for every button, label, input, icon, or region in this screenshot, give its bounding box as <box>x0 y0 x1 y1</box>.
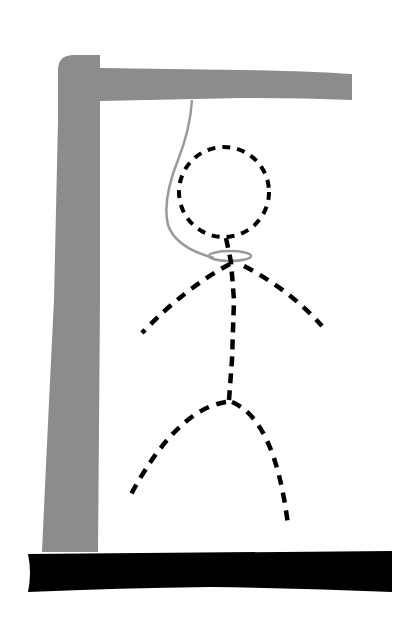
head <box>179 147 269 237</box>
right-leg <box>232 402 288 525</box>
hangman-drawing <box>0 0 420 630</box>
rope <box>166 100 214 258</box>
gallows-beam <box>100 68 352 101</box>
torso <box>226 238 234 400</box>
right-arm <box>244 266 322 326</box>
left-leg <box>128 402 226 500</box>
hangman-stage <box>0 0 420 630</box>
ground-base <box>28 551 392 592</box>
gallows-post <box>42 55 100 552</box>
left-arm <box>142 264 230 333</box>
